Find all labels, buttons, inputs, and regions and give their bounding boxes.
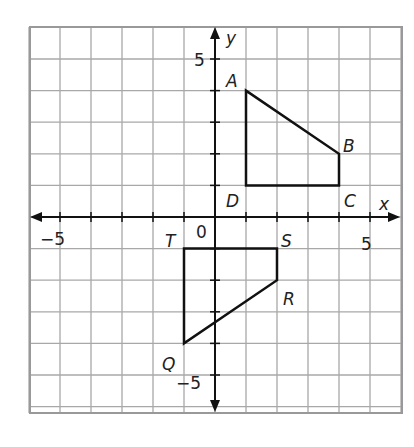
vertex-label-a: A	[225, 71, 238, 91]
vertex-label-c: C	[344, 191, 356, 211]
y-tick-label-neg5: −5	[176, 373, 201, 393]
vertex-label-t: T	[165, 231, 177, 251]
vertex-label-r: R	[283, 289, 295, 309]
quadrilateral-abcd	[246, 91, 339, 186]
x-axis-label: x	[378, 194, 390, 214]
x-tick-label-neg5: −5	[40, 229, 65, 249]
vertex-label-d: D	[226, 191, 239, 211]
vertex-label-q: Q	[162, 354, 175, 374]
vertex-label-b: B	[343, 136, 355, 156]
quadrilateral-qrst	[184, 249, 277, 344]
vertex-label-s: S	[281, 231, 292, 251]
x-axis-arrow-left-icon	[30, 212, 42, 222]
axes	[30, 27, 400, 412]
y-tick-label-5: 5	[194, 50, 205, 70]
origin-label: 0	[196, 222, 207, 242]
coordinate-plane: y x 0 −5 5 5 −5 A B C D T S R Q	[0, 0, 414, 447]
y-axis-arrow-up-icon	[210, 27, 220, 39]
x-axis-arrow-right-icon	[388, 212, 400, 222]
x-tick-label-5: 5	[361, 234, 372, 254]
y-axis-label: y	[225, 28, 237, 48]
